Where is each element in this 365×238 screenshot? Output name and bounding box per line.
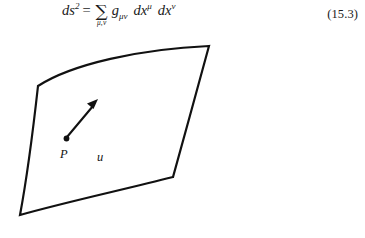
vector-u-label: u	[97, 150, 103, 165]
point-p-label: P	[60, 147, 68, 162]
equation-lhs-ds: ds	[62, 2, 75, 18]
surface-patch-drawing	[0, 30, 365, 238]
point-p-marker	[64, 136, 70, 142]
equation-number: (15.3)	[327, 7, 358, 22]
differential-one-index: μ	[147, 1, 152, 11]
summation-operator: ∑μ,ν	[96, 4, 108, 18]
manifold-diagram: P u	[0, 30, 365, 238]
sigma-icon: ∑	[96, 4, 108, 18]
equation-row: ds2=∑μ,νgμνdxμdxν (15.3)	[0, 0, 365, 34]
differential-two-index: ν	[171, 1, 175, 11]
differential-two: dx	[158, 2, 172, 18]
surface-outline-path	[20, 46, 209, 215]
equation-equals-sign: =	[79, 2, 94, 18]
metric-tensor-symbol: g	[112, 2, 119, 18]
textbook-figure: ds2=∑μ,νgμνdxμdxν (15.3) P u	[0, 0, 365, 238]
metric-equation: ds2=∑μ,νgμνdxμdxν	[62, 3, 175, 18]
metric-tensor-indices: μν	[119, 11, 128, 21]
differential-one: dx	[133, 2, 147, 18]
summation-limits: μ,ν	[97, 19, 106, 26]
